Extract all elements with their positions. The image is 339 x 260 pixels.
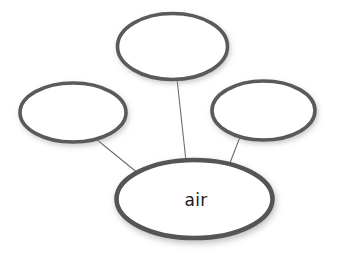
node-central-label: air (184, 190, 207, 210)
node-right[interactable] (212, 81, 315, 140)
node-central[interactable]: air (117, 160, 273, 238)
connector-top (177, 79, 186, 161)
node-left[interactable] (20, 83, 126, 142)
concept-map-svg: air (0, 0, 339, 260)
node-right-ellipse[interactable] (212, 81, 315, 140)
node-top-ellipse[interactable] (118, 14, 228, 80)
connector-left (96, 139, 139, 174)
node-top[interactable] (118, 14, 228, 80)
node-left-ellipse[interactable] (20, 83, 126, 142)
concept-map-canvas: air (0, 0, 339, 260)
